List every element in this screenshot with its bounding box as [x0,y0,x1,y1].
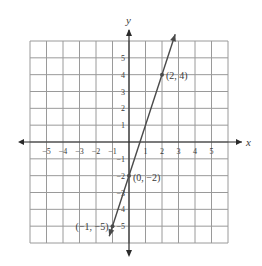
x-axis-arrow-right-icon [236,139,242,145]
data-line [109,34,175,236]
x-tick-label: 3 [177,147,181,156]
y-axis-arrow-down-icon [126,250,132,257]
line-arrow-start-icon [109,229,115,237]
x-tick-label: −3 [75,147,84,156]
x-tick-label: 5 [210,147,214,156]
x-axis-arrow-left-icon [18,139,24,145]
line-series [109,34,176,236]
axes: xy [18,14,251,257]
y-tick-label: −2 [116,172,125,181]
point-label: (−1, −5) [76,221,109,233]
x-tick-label: −5 [42,147,51,156]
data-point [111,224,115,228]
y-axis-label: y [125,14,131,26]
x-tick-label: 2 [160,147,164,156]
y-tick-label: 2 [121,104,125,113]
x-tick-label: −2 [92,147,101,156]
point-label: (2, 4) [166,70,188,82]
point-label: (0, −2) [133,172,160,184]
y-tick-label: −1 [116,155,125,164]
y-tick-label: 4 [121,71,125,80]
y-tick-label: 1 [121,121,125,130]
coordinate-plane: xy −5−4−3−2−112345−5−4−3−2−112345 (2, 4)… [0,0,262,266]
data-point [160,73,164,77]
data-point [127,174,131,178]
y-tick-label: 5 [121,54,125,63]
x-tick-label: −1 [108,147,117,156]
y-tick-label: −5 [116,222,125,231]
x-tick-label: 1 [144,147,148,156]
y-tick-label: 3 [121,88,125,97]
x-tick-label: −4 [59,147,68,156]
x-axis-label: x [245,136,251,148]
x-tick-label: 4 [193,147,197,156]
y-axis-arrow-up-icon [126,29,132,36]
